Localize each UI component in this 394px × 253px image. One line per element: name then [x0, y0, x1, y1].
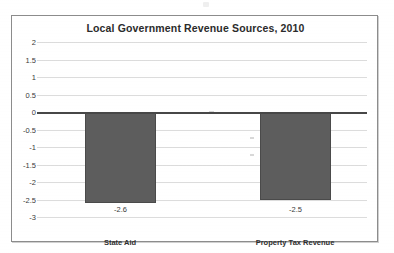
- y-tick-label: -1.5: [12, 160, 36, 169]
- y-tick-label: 0: [12, 108, 36, 117]
- scan-speck: [250, 154, 254, 156]
- bar-value-state-aid: -2.6: [114, 205, 127, 214]
- y-tick-label: -2: [12, 178, 36, 187]
- bar-group-state-aid: -2.6: [85, 42, 156, 217]
- y-axis: 2 1.5 1 0.5 0 -0.5 -1 -1.5 -2 -2.5 -3: [12, 42, 36, 217]
- bar-group-property-tax-revenue: -2.5: [260, 42, 331, 217]
- bar-property-tax-revenue[interactable]: [260, 112, 331, 200]
- y-tick-label: 1.5: [12, 55, 36, 64]
- y-tick-label: -0.5: [12, 125, 36, 134]
- x-axis: State Aid Property Tax Revenue: [37, 238, 367, 252]
- scan-speck: [250, 137, 254, 139]
- plot-area: -2.6 -2.5: [37, 42, 367, 217]
- bar-state-aid[interactable]: [85, 112, 156, 203]
- scan-artifact: [203, 2, 209, 7]
- chart-title: Local Government Revenue Sources, 2010: [12, 22, 379, 34]
- chart-frame: Local Government Revenue Sources, 2010 2…: [11, 15, 378, 242]
- bar-value-property-tax-revenue: -2.5: [289, 205, 302, 214]
- gridline: [37, 217, 367, 218]
- category-label-property-tax-revenue: Property Tax Revenue: [256, 238, 335, 247]
- y-tick-label: 2: [12, 38, 36, 47]
- y-tick-label: -3: [12, 213, 36, 222]
- y-tick-label: -2.5: [12, 195, 36, 204]
- y-tick-label: -1: [12, 143, 36, 152]
- zero-line: [37, 112, 367, 114]
- y-tick-label: 0.5: [12, 90, 36, 99]
- y-tick-label: 1: [12, 73, 36, 82]
- category-label-state-aid: State Aid: [104, 238, 136, 247]
